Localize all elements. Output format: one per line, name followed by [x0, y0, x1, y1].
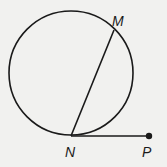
diagram-canvas: M N P [0, 0, 167, 167]
point-p-dot [146, 133, 152, 139]
geometry-figure [0, 0, 167, 167]
circle [9, 11, 133, 135]
label-n: N [65, 145, 75, 159]
label-m: M [112, 14, 124, 28]
chord-nm [71, 30, 114, 136]
label-p: P [142, 145, 151, 159]
